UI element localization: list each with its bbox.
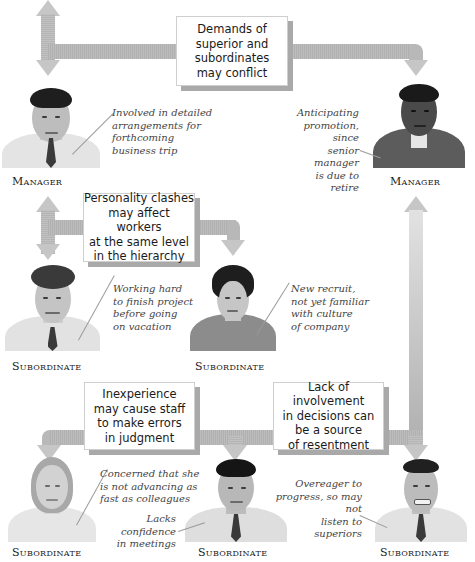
note-manager-1: Involved in detailed arrangements for fo… <box>112 107 212 157</box>
arrow-corner <box>227 220 240 242</box>
callout-box-inexperience: Inexperience may cause staff to make err… <box>84 382 195 450</box>
arrow-shaft-right-vertical <box>409 210 423 442</box>
role-label-subordinate-4: Subordinate <box>198 546 267 559</box>
arrowhead-down-icon <box>36 60 60 76</box>
role-label-subordinate-3: Subordinate <box>12 546 81 559</box>
note-manager-2: Anticipating promotion, since senior man… <box>285 107 359 195</box>
photo-manager-2 <box>373 80 465 168</box>
role-label-subordinate-5: Subordinate <box>380 546 449 559</box>
callout-box-superior-subordinates: Demands of superior and subordinates may… <box>176 16 288 86</box>
callout-box-involvement: Lack of involvement in decisions can be … <box>273 382 384 450</box>
role-label-subordinate-1: Subordinate <box>12 360 81 373</box>
photo-subordinate-2 <box>190 263 276 351</box>
photo-manager-1 <box>2 80 100 168</box>
arrow-bar-left-mid <box>48 220 84 235</box>
arrow-bar-right-top <box>288 44 416 59</box>
callout-text: Personality clashes may affect workers a… <box>84 191 194 264</box>
role-label-manager-1: Manager <box>12 175 62 188</box>
note-subordinate-5: Overeager to progress, so may not listen… <box>270 478 362 541</box>
arrowhead-down-icon <box>221 240 245 256</box>
role-label-subordinate-2: Subordinate <box>195 360 264 373</box>
role-label-manager-2: Manager <box>390 175 440 188</box>
arrow-bar-bottom-left <box>50 430 85 445</box>
note-subordinate-1: Working hard to finish project before go… <box>113 283 193 333</box>
photo-subordinate-3 <box>8 455 96 542</box>
callout-box-personality: Personality clashes may affect workers a… <box>83 193 195 262</box>
arrowhead-down-icon <box>404 60 428 76</box>
arrowhead-down-icon <box>36 244 60 260</box>
callout-text: Demands of superior and subordinates may… <box>195 22 270 80</box>
photo-subordinate-1 <box>5 263 100 351</box>
callout-text: Inexperience may cause staff to make err… <box>94 387 186 445</box>
note-subordinate-2: New recruit, not yet familiar with cultu… <box>291 283 369 333</box>
arrow-bar-left-top <box>48 44 178 59</box>
photo-subordinate-5 <box>375 455 467 542</box>
callout-text: Lack of involvement in decisions can be … <box>274 380 383 453</box>
note-subordinate-4: Lacks confidence in meetings <box>90 513 176 551</box>
